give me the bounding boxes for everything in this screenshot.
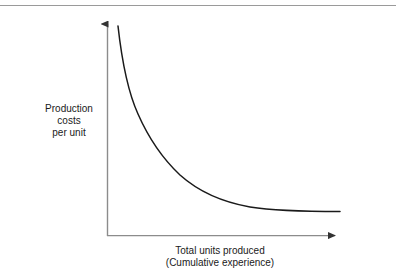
x-axis-label-line-2: (Cumulative experience): [145, 257, 295, 269]
x-axis-label-line-1: Total units produced: [145, 245, 295, 257]
experience-curve-line: [118, 26, 340, 212]
y-axis-label-line-1: Production: [14, 103, 124, 115]
y-axis-label-line-2: costs: [14, 115, 124, 127]
y-axis-label: Production costs per unit: [14, 103, 124, 139]
x-axis-label: Total units produced (Cumulative experie…: [145, 245, 295, 269]
experience-curve-figure: Production costs per unit Total units pr…: [0, 0, 396, 277]
y-axis-label-line-3: per unit: [14, 127, 124, 139]
